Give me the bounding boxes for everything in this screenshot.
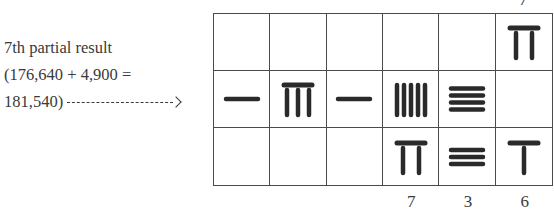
bottom-label-col-3 [326,192,383,214]
rod-numeral-3-icon [445,135,489,179]
grid-cell-r3-c6 [496,128,552,185]
grid-cell-r3-c2 [270,128,326,185]
grid-cell-r3-c4 [383,128,439,185]
grid-cell-r1-c2 [270,14,326,71]
grid-cell-r1-c6 [496,14,552,71]
grid-cell-r1-c1 [214,14,270,71]
grid-cell-r2-c1 [214,71,270,128]
rod-numeral-1-icon [220,77,264,121]
rod-numeral-4-icon [445,77,489,121]
rod-numeral-5-icon [389,77,433,121]
caption-line-3: 181,540) [4,88,183,115]
grid-cell-r1-c3 [327,14,383,71]
grid-cell-r1-c5 [439,14,495,71]
caption-line-3-text: 181,540) [4,92,63,111]
grid-cell-r2-c6 [496,71,552,128]
grid-cell-r2-c5 [439,71,495,128]
bottom-labels: 7 3 6 [213,192,553,214]
bottom-label-col-2 [270,192,327,214]
grid-cell-r2-c2 [270,71,326,128]
rod-numeral-1-icon [332,77,376,121]
bottom-label-col-6: 6 [496,192,553,214]
bottom-label-col-4: 7 [383,192,440,214]
top-label-col-6: 7 [519,0,528,10]
caption-line-2: (176,640 + 4,900 = [4,61,183,88]
grid-cell-r3-c5 [439,128,495,185]
bottom-label-col-1 [213,192,270,214]
grid-cell-r2-c4 [383,71,439,128]
grid-cell-r3-c1 [214,128,270,185]
grid-cell-r3-c3 [327,128,383,185]
rod-numeral-7-icon [389,135,433,179]
rod-numeral-8-icon [276,77,320,121]
caption-line-1: 7th partial result [4,34,183,61]
partial-result-caption: 7th partial result (176,640 + 4,900 = 18… [4,34,183,115]
grid-cell-r1-c4 [383,14,439,71]
grid-cell-r2-c3 [327,71,383,128]
counting-board-grid [213,13,553,186]
rod-numeral-6-icon [502,135,546,179]
dashed-arrow-icon [67,98,183,108]
rod-numeral-7-icon [502,20,546,64]
bottom-label-col-5: 3 [440,192,497,214]
